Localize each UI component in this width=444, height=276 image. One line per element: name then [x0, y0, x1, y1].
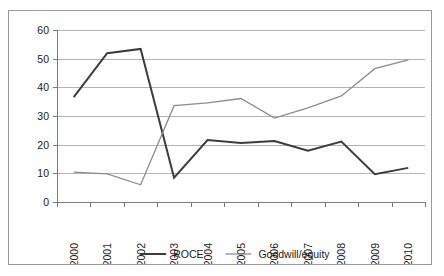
x-axis-label-2008: 2008 — [335, 243, 347, 264]
y-axis-label-10: 10 — [37, 167, 49, 179]
chart-figure: 0102030405060 20002001200220032004200520… — [8, 10, 432, 265]
series-line-goodwill-equity — [74, 60, 409, 185]
y-axis-label-60: 60 — [37, 24, 49, 36]
y-axis-label-20: 20 — [37, 139, 49, 151]
x-axis-label-2009: 2009 — [369, 243, 381, 264]
legend-label-goodwill-equity: Goodwill/equity — [258, 248, 330, 260]
line-chart-svg: 0102030405060 20002001200220032004200520… — [9, 11, 431, 264]
x-axis-label-2000: 2000 — [68, 243, 80, 264]
x-axis-label-2001: 2001 — [101, 243, 113, 264]
y-axis-tick-labels: 0102030405060 — [37, 24, 49, 208]
y-axis-label-50: 50 — [37, 53, 49, 65]
tick-marks-group — [53, 31, 426, 208]
gridlines-group — [57, 31, 425, 203]
legend-label-roce: ROCE — [173, 248, 203, 260]
plot-area: 0102030405060 20002001200220032004200520… — [9, 11, 431, 264]
x-axis-label-2010: 2010 — [402, 243, 414, 264]
y-axis-label-40: 40 — [37, 81, 49, 93]
y-axis-label-0: 0 — [43, 196, 49, 208]
y-axis-label-30: 30 — [37, 110, 49, 122]
series-line-roce — [74, 49, 409, 178]
